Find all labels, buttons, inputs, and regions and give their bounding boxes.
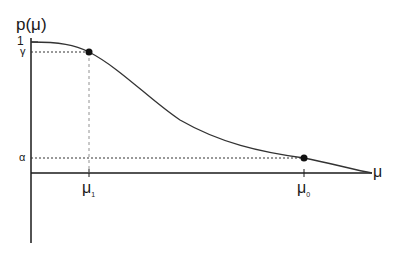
- y-tick-label-gamma: γ: [20, 46, 26, 57]
- power-curve: [31, 42, 372, 173]
- y-tick-label-alpha: α: [19, 152, 25, 163]
- x-axis-label: μ: [373, 164, 382, 180]
- mu0-subscript: 0: [306, 191, 310, 198]
- power-curve-diagram: [0, 0, 401, 254]
- point-mu0-alpha: [301, 155, 308, 162]
- mu1-subscript: 1: [91, 191, 95, 198]
- point-mu1-gamma: [86, 49, 93, 56]
- x-tick-label-mu1: μ1: [82, 180, 95, 198]
- mu0-symbol: μ: [297, 179, 306, 196]
- mu1-symbol: μ: [82, 179, 91, 196]
- y-axis-label: p(μ): [16, 16, 47, 33]
- x-tick-label-mu0: μ0: [297, 180, 310, 198]
